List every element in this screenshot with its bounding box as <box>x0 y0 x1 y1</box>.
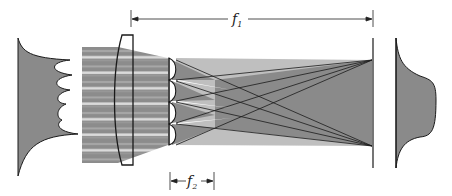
f1-label: f1 <box>231 11 242 29</box>
f2-label: f2 <box>186 173 197 191</box>
input-profile <box>18 38 78 176</box>
f1-dimension <box>131 10 373 27</box>
lenslet-array <box>169 58 176 145</box>
homogenizer-diagram: f1 f2 <box>0 0 452 196</box>
converging-beams <box>172 58 372 146</box>
output-profile <box>396 38 436 168</box>
input-beam <box>82 47 168 163</box>
